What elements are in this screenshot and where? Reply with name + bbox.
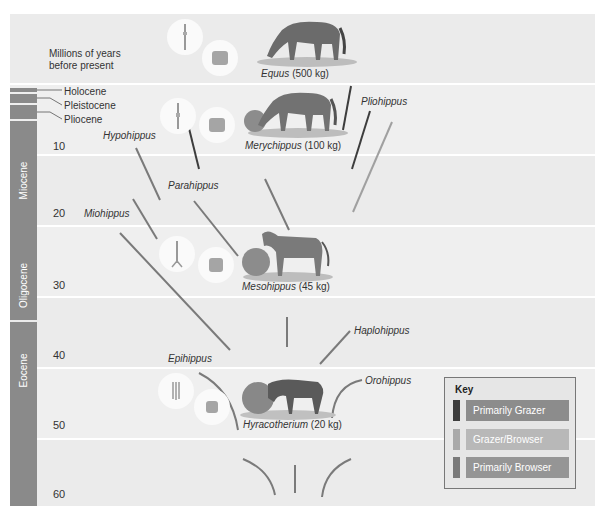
- browser-swatch: [453, 457, 460, 478]
- grazer-browser-swatch: [453, 429, 460, 450]
- genus-miohippus: Miohippus: [84, 208, 130, 219]
- genus-hypohippus: Hypohippus: [103, 130, 156, 141]
- equus-foot-icon: [167, 19, 203, 55]
- merychippus-image: [243, 83, 353, 138]
- equus-caption: Equus (500 kg): [261, 68, 329, 79]
- equus-tooth-icon: [202, 40, 238, 76]
- hyracotherium-foot-icon: [158, 373, 194, 409]
- genus-epihippus: Epihippus: [168, 353, 212, 364]
- grazer-browser-label: Grazer/Browser: [466, 429, 569, 450]
- merychippus-foot-icon: [160, 98, 196, 134]
- browser-label: Primarily Browser: [466, 457, 569, 478]
- hyracotherium-image: [238, 370, 338, 420]
- merychippus-tooth-icon: [199, 107, 235, 143]
- hyracotherium-tooth-icon: [194, 389, 230, 425]
- legend-title: Key: [455, 384, 473, 395]
- legend: Key Primarily Grazer Grazer/Browser Prim…: [444, 377, 576, 489]
- hyracotherium-caption: Hyracotherium (20 kg): [243, 419, 342, 430]
- mesohippus-image: [238, 222, 338, 282]
- equus-image: [252, 12, 362, 67]
- genus-pliohippus: Pliohippus: [361, 96, 407, 107]
- genus-parahippus: Parahippus: [168, 180, 219, 191]
- mesohippus-tooth-icon: [198, 247, 234, 283]
- grazer-label: Primarily Grazer: [466, 400, 569, 421]
- mesohippus-foot-icon: [159, 236, 195, 272]
- genus-haplohippus: Haplohippus: [354, 325, 410, 336]
- genus-orohippus: Orohippus: [365, 375, 411, 386]
- mesohippus-caption: Mesohippus (45 kg): [242, 281, 330, 292]
- grazer-swatch: [453, 400, 460, 421]
- legend-item-browser: Primarily Browser: [453, 457, 573, 478]
- legend-item-grazer-browser: Grazer/Browser: [453, 429, 573, 450]
- legend-item-grazer: Primarily Grazer: [453, 400, 573, 421]
- merychippus-caption: Merychippus (100 kg): [245, 140, 341, 151]
